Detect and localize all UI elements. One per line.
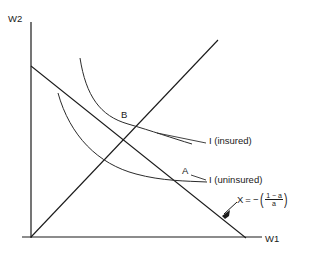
indifference-curve-insured-label: I (insured)	[209, 136, 252, 146]
formula-fraction: 1 − a a	[265, 192, 283, 208]
economics-indifference-curve-diagram	[0, 0, 319, 254]
formula-numerator: 1 − a	[265, 192, 283, 199]
formula-minus: −	[253, 194, 259, 205]
budget-line-slope-formula: X = − ( 1 − a a )	[237, 192, 289, 208]
figure-canvas: W2 W1 B A I (insured) I (uninsured) X = …	[0, 0, 319, 254]
forty-five-degree-line	[31, 40, 218, 237]
formula-equals: =	[245, 194, 251, 205]
point-b-label: B	[121, 110, 127, 120]
formula-arrow-head	[222, 210, 230, 219]
leader-line-insured	[157, 133, 206, 143]
y-axis-label: W2	[8, 14, 22, 24]
indifference-curve-uninsured-label: I (uninsured)	[209, 175, 262, 185]
formula-open-paren: (	[261, 193, 265, 207]
indifference-curve-insured	[80, 58, 192, 144]
formula-denominator: a	[271, 200, 277, 207]
leader-line-uninsured	[191, 175, 206, 180]
formula-close-paren: )	[284, 193, 288, 207]
budget-line	[31, 66, 246, 238]
formula-variable: X	[237, 194, 243, 205]
formula-arrow-shaft	[224, 202, 237, 214]
point-a-label: A	[182, 166, 188, 176]
x-axis-label: W1	[265, 234, 279, 244]
